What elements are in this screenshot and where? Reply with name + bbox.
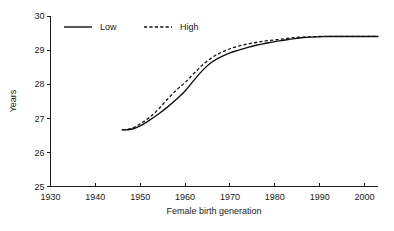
series-line-high [122, 36, 378, 129]
x-axis-ticks: 19301940195019601970198019902000 [40, 183, 374, 202]
axes-group [51, 16, 379, 187]
x-tick-label: 1950 [130, 192, 150, 202]
chart-container: 252627282930 193019401950196019701980199… [0, 0, 394, 231]
legend-label-low: Low [100, 22, 117, 32]
x-tick-label: 1960 [175, 192, 195, 202]
y-tick-label: 26 [34, 148, 44, 158]
series-group [122, 36, 378, 129]
x-tick-label: 1930 [40, 192, 60, 202]
line-chart: 252627282930 193019401950196019701980199… [0, 0, 394, 231]
y-tick-label: 28 [34, 79, 44, 89]
x-tick-label: 2000 [355, 192, 375, 202]
y-axis-ticks: 252627282930 [34, 11, 50, 192]
chart-legend: LowHigh [64, 22, 199, 32]
x-tick-label: 1980 [265, 192, 285, 202]
x-tick-label: 1970 [220, 192, 240, 202]
y-tick-label: 27 [34, 114, 44, 124]
y-axis-title: Years [8, 89, 18, 112]
x-tick-label: 1940 [85, 192, 105, 202]
x-axis-title: Female birth generation [166, 206, 261, 216]
y-tick-label: 30 [34, 11, 44, 21]
y-tick-label: 25 [34, 182, 44, 192]
y-axis-line [51, 16, 379, 187]
series-line-low [122, 36, 378, 129]
legend-label-high: High [180, 22, 199, 32]
y-tick-label: 29 [34, 45, 44, 55]
x-tick-label: 1990 [310, 192, 330, 202]
